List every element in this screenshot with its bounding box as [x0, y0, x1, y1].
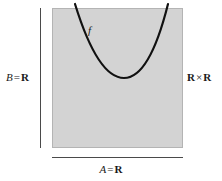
domain-equals-sign: =	[106, 163, 114, 175]
domain-axis-rule	[52, 157, 183, 158]
codomain-label: B=R	[6, 72, 29, 83]
function-label: f	[88, 25, 91, 36]
product-times-operator: ×	[195, 71, 203, 83]
product-label: R×R	[187, 72, 211, 83]
function-label-text: f	[88, 24, 91, 36]
codomain-set: R	[21, 71, 29, 83]
product-square	[52, 8, 183, 148]
domain-set: R	[115, 163, 123, 175]
product-set-right: R	[203, 71, 211, 83]
codomain-variable: B	[6, 71, 13, 83]
domain-label: A=R	[0, 164, 222, 175]
codomain-equals-sign: =	[13, 71, 21, 83]
codomain-axis-rule	[40, 8, 41, 148]
product-set-left: R	[187, 71, 195, 83]
function-graph-figure: f B=R R×R A=R	[0, 0, 222, 181]
